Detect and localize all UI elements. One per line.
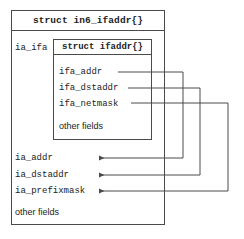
outer-struct-title: struct in6_ifaddr{} [11, 10, 165, 31]
field-label-ifa-netmask: ifa_netmask [59, 99, 118, 109]
field-label-ia-prefixmask: ia_prefixmask [15, 186, 85, 196]
field-label-ia-ifa: ia_ifa [15, 43, 47, 53]
field-label-ifa-addr: ifa_addr [59, 67, 102, 77]
inner-struct-title: struct ifaddr{} [53, 39, 152, 55]
diagram-canvas: struct in6_ifaddr{} ia_ifa struct ifaddr… [0, 0, 244, 239]
field-label-ia-addr: ia_addr [15, 153, 53, 163]
field-label-ifa-dstaddr: ifa_dstaddr [59, 83, 118, 93]
outer-other-fields-label: other fields [15, 207, 59, 217]
field-label-ia-dstaddr: ia_dstaddr [15, 170, 69, 180]
inner-other-fields-label: other fields [59, 121, 103, 131]
